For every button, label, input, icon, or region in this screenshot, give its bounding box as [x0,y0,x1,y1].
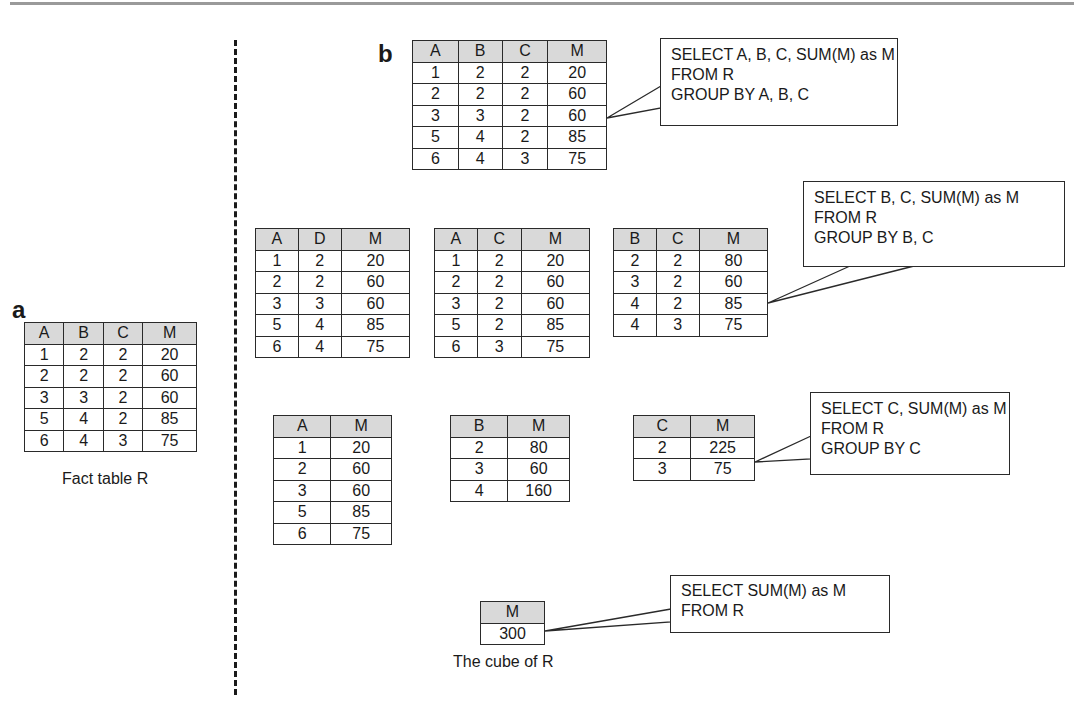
table-cell: 2 [477,272,521,294]
table-cell: 5 [435,315,478,337]
table-row: 6475 [256,336,410,358]
table-cell: 2 [656,250,699,272]
table-header-row: ADM [256,229,410,251]
panel-a-label: a [12,298,25,322]
table-row: 5485 [256,315,410,337]
fact-table-caption: Fact table R [62,471,148,487]
callout-c-pointer [755,436,811,462]
table-cell: 3 [413,105,459,127]
table-cell: 2 [103,366,142,388]
table-row: 375 [634,459,755,481]
table-cell: 3 [634,459,691,481]
table-cell: 75 [699,315,767,337]
table-cell: 3 [614,272,657,294]
table-cell: 75 [331,523,392,545]
column-header: A [256,229,299,251]
sql-line: SELECT SUM(M) as M [681,581,881,601]
sql-line: SELECT A, B, C, SUM(M) as M [671,45,889,65]
table-row: 33260 [25,387,197,409]
table-cell: 1 [274,437,331,459]
table-cell: 60 [521,293,589,315]
table-cell: 2 [298,250,341,272]
table-cell: 2 [614,250,657,272]
table-cell: 2 [502,84,548,106]
table-row: 1220 [256,250,410,272]
column-header: C [502,41,548,63]
table-cell: 85 [548,127,607,149]
sql-line: GROUP BY A, B, C [671,85,889,105]
table-row: 4375 [614,315,768,337]
column-header: B [451,416,508,438]
table-row: 3260 [435,293,590,315]
table-cell: 2 [656,272,699,294]
table-cell: 2 [477,250,521,272]
table-row: 12220 [25,344,197,366]
table-cell: 2 [103,344,142,366]
column-header: M [481,602,545,624]
table-header-row: ABCM [25,323,197,345]
column-header: M [508,416,570,438]
table-row: 120 [274,437,392,459]
callout-sql-c: SELECT C, SUM(M) as M FROM R GROUP BY C [810,392,1010,475]
table-cell: 6 [274,523,331,545]
table-cell: 1 [25,344,64,366]
table-cell: 2 [458,84,502,106]
table-cell: 225 [691,437,755,459]
column-header: M [331,416,392,438]
table-cell: 20 [548,62,607,84]
column-header: D [298,229,341,251]
column-header: C [103,323,142,345]
table-row: 12220 [413,62,607,84]
table-cell: 2 [64,366,103,388]
table-cell: 300 [481,623,545,645]
table-header-row: BCM [614,229,768,251]
table-cell: 20 [331,437,392,459]
table-cell: 75 [691,459,755,481]
table-cell: 2 [413,84,459,106]
table-cell: 3 [458,105,502,127]
column-header: C [477,229,521,251]
table-cell: 6 [25,430,64,452]
table-cell: 60 [548,105,607,127]
table-cell: 75 [341,336,409,358]
table-row: 2225 [634,437,755,459]
column-header: M [548,41,607,63]
table-row: 3260 [614,272,768,294]
table-row: 360 [274,480,392,502]
table-cell: 4 [451,480,508,502]
table-cell: 1 [413,62,459,84]
table-cell: 4 [614,315,657,337]
table-cell: 3 [64,387,103,409]
sql-line: FROM R [681,601,881,621]
table-cell: 2 [256,272,299,294]
table-cell: 160 [508,480,570,502]
callout-sql-abc: SELECT A, B, C, SUM(M) as M FROM R GROUP… [660,38,898,126]
table-cell: 4 [458,127,502,149]
table-cell: 60 [341,293,409,315]
column-header: M [691,416,755,438]
table-cell: 80 [699,250,767,272]
table-cell: 3 [656,315,699,337]
cuboid-a-table: AM120260360585675 [273,415,392,545]
table-row: 54285 [25,409,197,431]
table-row: 2260 [435,272,590,294]
cuboid-ad-table: ADM12202260336054856475 [255,228,410,358]
column-header: A [274,416,331,438]
table-row: 675 [274,523,392,545]
column-header: B [458,41,502,63]
column-header: A [435,229,478,251]
table-row: 1220 [435,250,590,272]
table-cell: 1 [256,250,299,272]
table-cell: 2 [656,293,699,315]
table-row: 300 [481,623,545,645]
table-header-row: ABCM [413,41,607,63]
table-cell: 85 [143,409,197,431]
table-cell: 2 [458,62,502,84]
column-header: C [634,416,691,438]
fact-table-r: ABCM1222022260332605428564375 [24,322,197,452]
table-cell: 3 [25,387,64,409]
table-row: 54285 [413,127,607,149]
table-cell: 20 [521,250,589,272]
table-cell: 3 [274,480,331,502]
table-row: 2280 [614,250,768,272]
